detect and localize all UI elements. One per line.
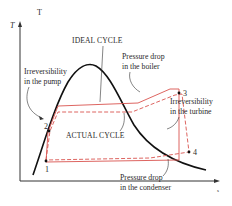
condenser-note-line2: in the condenser bbox=[120, 183, 171, 192]
state-3-dot bbox=[178, 92, 181, 95]
state-4-label: 4 bbox=[193, 148, 197, 157]
turbine-note-line2: in the turbine bbox=[170, 107, 212, 116]
state-1-dot bbox=[45, 160, 48, 163]
state-2-dot bbox=[48, 130, 51, 133]
turbine-note-leader bbox=[167, 117, 179, 129]
pump-note-line1: Irreversibility bbox=[24, 67, 67, 76]
turbine-note-line1: Irreversibility bbox=[170, 97, 213, 106]
actual-cycle-leader bbox=[120, 113, 124, 131]
ideal-cycle-label: IDEAL CYCLE bbox=[72, 36, 123, 45]
boiler-note-line2: in the boiler bbox=[122, 62, 160, 71]
pump-arrow-icon bbox=[39, 116, 44, 120]
y-axis-arrow-icon bbox=[18, 21, 22, 27]
x-axis-arrow-icon bbox=[214, 179, 220, 183]
state-2-label: 2 bbox=[44, 122, 48, 131]
pump-note-line2: in the pump bbox=[24, 77, 61, 86]
corner-glyph: T bbox=[37, 8, 42, 17]
pump-note-leader bbox=[27, 87, 42, 118]
ideal-cycle-leader bbox=[100, 46, 103, 102]
state-4-dot bbox=[188, 151, 191, 154]
condenser-note-leader bbox=[163, 159, 168, 176]
condenser-note-line1: Pressure drop bbox=[120, 173, 163, 182]
ts-diagram: T T s 1 2 3 4 IDEAL CYCLE ACTUAL CYCLE I… bbox=[0, 0, 232, 206]
x-axis-label: s bbox=[217, 188, 219, 193]
y-axis-label: T bbox=[10, 21, 15, 30]
boiler-note-leader bbox=[130, 72, 140, 92]
actual-cycle-label: ACTUAL CYCLE bbox=[66, 131, 125, 140]
state-1-label: 1 bbox=[45, 165, 49, 174]
boiler-note-line1: Pressure drop bbox=[122, 52, 165, 61]
